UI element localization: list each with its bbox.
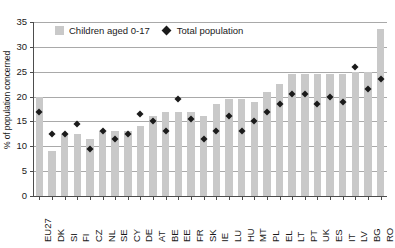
x-axis-tick-label: LU	[233, 230, 243, 242]
x-axis-tick-mark	[242, 197, 243, 200]
bar	[326, 74, 333, 196]
gridline	[33, 47, 387, 48]
bar	[200, 116, 207, 196]
data-point-marker	[352, 63, 359, 70]
bar	[263, 92, 270, 196]
bar	[251, 102, 258, 196]
x-axis-tick-mark	[166, 197, 167, 200]
x-axis-tick-mark	[191, 197, 192, 200]
bar	[213, 104, 220, 196]
gridline	[33, 121, 387, 122]
x-axis-tick-label: CY	[132, 229, 142, 242]
x-axis-tick-label: DK	[56, 229, 66, 242]
x-axis-tick-mark	[305, 197, 306, 200]
x-axis-tick-mark	[178, 197, 179, 200]
x-axis-tick-label: AT	[157, 231, 167, 242]
x-axis-tick-mark	[368, 197, 369, 200]
y-axis-tick-label: 15	[7, 117, 27, 127]
plot-area	[33, 22, 387, 196]
x-axis-tick-label: IE	[220, 233, 230, 242]
x-axis-tick-mark	[90, 197, 91, 200]
gridline	[33, 22, 387, 23]
x-axis-tick-label: FR	[195, 229, 205, 242]
x-axis-tick-mark	[343, 197, 344, 200]
x-axis-tick-label: BE	[170, 229, 180, 242]
x-axis-tick-label: ES	[334, 229, 344, 242]
bar	[137, 126, 144, 196]
data-point-marker	[48, 130, 55, 137]
x-axis-tick-label: PL	[271, 230, 281, 242]
x-axis-tick-label: HU	[246, 228, 256, 242]
x-axis-tick-mark	[115, 197, 116, 200]
legend-diamond-total-population	[161, 26, 171, 36]
x-axis-tick-mark	[140, 197, 141, 200]
bar	[99, 131, 106, 196]
x-axis-tick-mark	[292, 197, 293, 200]
x-axis-tick-mark	[280, 197, 281, 200]
y-axis-tick-label: 10	[7, 142, 27, 152]
bar	[162, 112, 169, 197]
x-axis-tick-label: EE	[182, 229, 192, 242]
bar	[339, 74, 346, 196]
x-axis-tick-mark	[128, 197, 129, 200]
x-axis-tick-label: BG	[372, 228, 382, 242]
x-axis-tick-label: UK	[321, 229, 331, 242]
bar	[314, 74, 321, 196]
x-axis-line	[33, 196, 387, 197]
gridline	[33, 97, 387, 98]
x-axis-tick-label: RO	[385, 228, 395, 242]
y-axis-tick-label: 5	[7, 166, 27, 176]
y-axis-tick-label: 30	[7, 42, 27, 52]
x-axis-tick-label: IT	[347, 234, 357, 242]
y-axis-tick-label: 35	[7, 17, 27, 27]
legend-label-children: Children aged 0-17	[69, 25, 150, 36]
y-axis-tick-label: 25	[7, 67, 27, 77]
bar	[149, 116, 156, 196]
x-axis-tick-mark	[355, 197, 356, 200]
x-axis-tick-mark	[204, 197, 205, 200]
bar	[124, 131, 131, 196]
x-axis-tick-label: EL	[284, 230, 294, 242]
data-point-marker	[137, 110, 144, 117]
x-axis-tick-label: SI	[69, 233, 79, 242]
gridline	[33, 72, 387, 73]
bar	[175, 112, 182, 197]
bar	[48, 151, 55, 196]
x-axis-tick-mark	[65, 197, 66, 200]
x-axis-tick-label: DE	[144, 229, 154, 242]
x-axis-tick-mark	[229, 197, 230, 200]
x-axis-tick-mark	[216, 197, 217, 200]
x-axis-tick-label: SK	[208, 229, 218, 242]
y-axis-tick-label: 20	[7, 92, 27, 102]
legend-label-total-population: Total population	[177, 25, 244, 36]
bar	[238, 99, 245, 196]
x-axis-tick-mark	[330, 197, 331, 200]
bar	[377, 29, 384, 196]
x-axis-tick-label: PT	[309, 230, 319, 242]
x-axis-tick-mark	[254, 197, 255, 200]
x-axis-tick-mark	[77, 197, 78, 200]
bar	[187, 112, 194, 197]
x-axis-tick-label: NL	[107, 230, 117, 242]
x-axis-tick-mark	[153, 197, 154, 200]
legend-swatch-children	[55, 26, 64, 35]
x-axis-tick-mark	[381, 197, 382, 200]
x-axis-tick-mark	[317, 197, 318, 200]
x-axis-tick-label: LT	[296, 232, 306, 242]
x-axis-tick-mark	[103, 197, 104, 200]
bar	[74, 134, 81, 196]
x-axis-tick-mark	[267, 197, 268, 200]
x-axis-tick-label: CZ	[94, 229, 104, 242]
x-axis-tick-label: FI	[81, 234, 91, 242]
y-axis-tick-label: 0	[7, 191, 27, 201]
x-axis-tick-mark	[39, 197, 40, 200]
x-axis-tick-label: SE	[119, 229, 129, 242]
x-axis-tick-label: LV	[359, 231, 369, 242]
chart-legend: Children aged 0-17 Total population	[55, 25, 243, 36]
x-axis-tick-mark	[52, 197, 53, 200]
bar	[352, 72, 359, 196]
x-axis-tick-label: MT	[258, 228, 268, 242]
bar	[61, 134, 68, 196]
x-axis-tick-label: EU27	[43, 218, 53, 242]
